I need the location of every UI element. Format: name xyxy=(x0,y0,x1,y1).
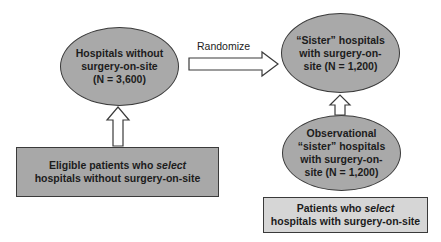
node-line: surgery-on-site xyxy=(76,60,164,73)
eligible-patients-box: Eligible patients who select hospitals w… xyxy=(16,147,219,197)
box-line: hospitals without surgery-on-site xyxy=(35,172,201,186)
box-line: hospitals with surgery-on-site xyxy=(271,215,420,229)
node-line: Hospitals without xyxy=(76,47,164,60)
patients-select-box: Patients who select hospitals with surge… xyxy=(263,197,428,233)
box-line-text: Eligible patients who xyxy=(49,159,156,171)
node-line: site (N = 1,200) xyxy=(296,60,385,73)
observational-sister-hospitals-node: Observational “sister” hospitals with su… xyxy=(282,115,401,191)
emphasis-text: select xyxy=(364,202,394,214)
box-line-text: Patients who xyxy=(297,202,365,214)
node-line: “Sister” hospitals xyxy=(296,34,385,47)
node-line: (N = 3,600) xyxy=(76,73,164,86)
node-line: site (N = 1,200) xyxy=(298,166,386,179)
up-arrow-left-icon xyxy=(107,107,129,146)
randomize-label: Randomize xyxy=(197,40,250,52)
up-arrow-right-icon xyxy=(330,95,350,115)
node-line: with surgery-on- xyxy=(298,153,386,166)
node-line: “sister” hospitals xyxy=(298,140,386,153)
emphasis-text: select xyxy=(156,159,186,171)
node-line: with surgery-on- xyxy=(296,47,385,60)
diagram-canvas: Hospitals without surgery-on-site (N = 3… xyxy=(0,0,441,242)
box-line: Patients who select xyxy=(271,202,420,216)
randomize-arrow-icon xyxy=(189,52,278,76)
node-line: Observational xyxy=(298,127,386,140)
hospitals-without-surgery-node: Hospitals without surgery-on-site (N = 3… xyxy=(60,27,179,106)
box-line: Eligible patients who select xyxy=(35,159,201,173)
sister-hospitals-node: “Sister” hospitals with surgery-on- site… xyxy=(281,13,400,93)
